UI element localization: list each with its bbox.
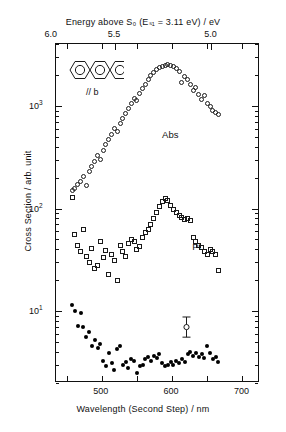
x-tick-bottom	[172, 376, 173, 381]
data-point-series-1	[118, 243, 123, 248]
data-point-series-2	[124, 360, 128, 364]
y-tick-right	[255, 249, 258, 250]
y-tick-left	[56, 327, 59, 328]
data-point-series-2	[112, 368, 116, 372]
data-point-series-0	[115, 129, 120, 134]
y-tick-left	[56, 342, 59, 343]
data-point-series-2	[135, 371, 139, 375]
data-point-series-2	[141, 363, 145, 367]
y-tick-right	[255, 218, 258, 219]
data-point-series-0	[103, 142, 108, 147]
data-point-series-1	[137, 244, 142, 249]
data-point-series-1	[157, 204, 162, 209]
y-tick-right	[255, 224, 258, 225]
data-point-series-1	[115, 278, 120, 283]
data-point-series-1	[205, 252, 210, 257]
data-point-series-1	[103, 248, 108, 253]
data-point-series-2	[79, 311, 83, 315]
data-point-series-0	[106, 137, 111, 142]
data-point-series-1	[146, 227, 151, 232]
y-tick-left	[56, 129, 59, 130]
y-tick-left	[56, 44, 59, 45]
data-point-series-2	[205, 344, 209, 348]
data-point-series-2	[107, 351, 111, 355]
data-point-series-2	[90, 344, 94, 348]
x2-tick	[211, 44, 212, 50]
top-axis-title: Energy above S₀ (Eₛ₁ = 3.11 eV) / eV	[66, 17, 221, 27]
y-tick-right	[252, 106, 258, 107]
y-tick-right	[255, 327, 258, 328]
x2-tick	[115, 44, 116, 50]
data-point-series-2	[155, 356, 159, 360]
x-tick-top	[207, 44, 208, 49]
data-point-series-1	[72, 232, 77, 237]
data-point-series-1	[95, 263, 100, 268]
y-tick-left	[56, 352, 59, 353]
data-point-series-1	[81, 227, 86, 232]
y-tick-right	[255, 321, 258, 322]
y-tick-right	[255, 365, 258, 366]
y-tick-left	[56, 231, 59, 232]
data-point-series-1	[87, 260, 92, 265]
data-point-series-2	[81, 325, 85, 329]
y-tick-left	[56, 122, 59, 123]
orientation-label: // b	[86, 87, 99, 97]
series-label-abs: Abs	[162, 129, 178, 140]
y-tick-left	[56, 321, 59, 322]
y-tick-right	[255, 147, 258, 148]
data-point-series-1	[109, 252, 114, 257]
x-tick-bottom	[207, 376, 208, 381]
bottom-axis-title: Wavelength (Second Step) / nm	[76, 404, 209, 414]
bottom-tick-label: 600	[164, 386, 179, 396]
y-tick-left	[56, 116, 59, 117]
data-point-series-2	[202, 356, 206, 360]
data-point-series-2	[98, 342, 102, 346]
data-point-series-0	[129, 101, 134, 106]
y-tick-label: 101	[29, 304, 43, 316]
data-point-series-0	[134, 98, 139, 103]
data-point-series-0	[196, 92, 201, 97]
y-tick-right	[255, 137, 258, 138]
y-tick-left	[56, 239, 59, 240]
y-tick-left	[56, 57, 59, 58]
y-tick-right	[252, 209, 258, 210]
data-point-series-2	[118, 344, 122, 348]
data-point-series-0	[123, 111, 128, 116]
x-tick-top	[137, 44, 138, 49]
x-tick-bottom	[137, 376, 138, 381]
y-tick-left	[56, 111, 59, 112]
y-tick-left	[56, 209, 62, 210]
y-tick-right	[252, 311, 258, 312]
data-point-series-0	[109, 132, 114, 137]
data-point-series-2	[84, 335, 88, 339]
data-point-series-2	[87, 330, 91, 334]
top-tick-label: 6.0	[45, 29, 58, 39]
data-point-series-1	[78, 249, 83, 254]
bottom-tick-label: 700	[234, 386, 249, 396]
data-point-series-2	[126, 366, 130, 370]
error-bar-marker	[181, 316, 192, 338]
data-point-series-0	[92, 159, 97, 164]
top-tick-label: 5.0	[204, 29, 217, 39]
data-point-series-0	[78, 179, 83, 184]
y-tick-right	[255, 383, 258, 384]
x-tick-top	[67, 44, 68, 49]
data-point-series-2	[157, 352, 161, 356]
data-point-series-1	[75, 243, 80, 248]
data-point-series-0	[120, 116, 125, 121]
y-tick-right	[255, 160, 258, 161]
data-point-series-2	[132, 359, 136, 363]
data-point-series-0	[89, 164, 94, 169]
y-tick-left	[56, 106, 62, 107]
data-point-series-2	[93, 338, 97, 342]
x-tick-top	[242, 44, 243, 49]
data-point-series-1	[213, 252, 218, 257]
data-point-series-1	[123, 254, 128, 259]
data-point-series-1	[188, 218, 193, 223]
data-point-series-2	[76, 324, 80, 328]
y-tick-left	[56, 147, 59, 148]
data-point-series-1	[154, 210, 159, 215]
y-tick-left	[56, 75, 59, 76]
y-tick-left	[56, 224, 59, 225]
data-point-series-2	[73, 309, 77, 313]
